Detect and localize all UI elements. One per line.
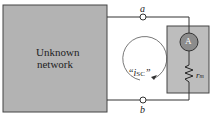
resistor-label: rm (196, 70, 204, 80)
current-label: “iSC” (128, 67, 150, 78)
terminal-b-label: b (140, 104, 145, 115)
network-label-line2: network (37, 58, 73, 70)
current-subscript: SC (136, 70, 145, 78)
ammeter-label: A (185, 36, 192, 46)
terminal-a-label: a (140, 3, 145, 14)
terminal-b-node (140, 97, 146, 103)
current-close-quote: ” (145, 67, 151, 78)
circuit-diagram: Unknown network a b “iSC” A rm (0, 0, 215, 121)
terminal-a-node (140, 14, 146, 20)
circuit-svg (0, 0, 215, 121)
network-label-line1: Unknown (36, 46, 79, 58)
network-label: Unknown network (36, 46, 74, 70)
resistor-subscript: m (200, 73, 204, 79)
